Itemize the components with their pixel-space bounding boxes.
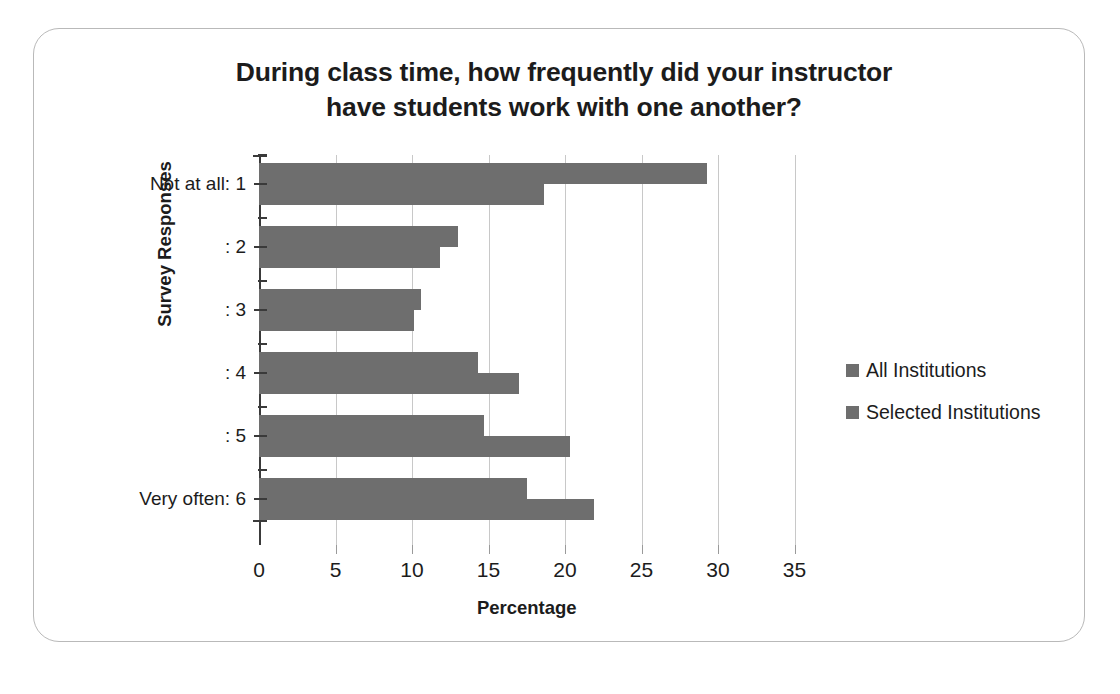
y-tick-label: : 3 <box>46 299 246 321</box>
bar-group: : 2 <box>259 226 795 268</box>
y-tick-mark <box>254 246 267 248</box>
y-tick-label: : 2 <box>46 236 246 258</box>
y-tick-mark-minor <box>258 343 267 345</box>
x-tick-label: 15 <box>477 558 500 582</box>
chart-title-line-2: have students work with one another? <box>144 90 984 125</box>
x-tick-mark <box>795 545 796 554</box>
x-tick-mark <box>489 545 490 554</box>
legend-item[interactable]: Selected Institutions <box>846 401 1041 424</box>
x-tick-mark <box>642 545 643 554</box>
x-tick-mark <box>565 545 566 554</box>
y-tick-label: : 4 <box>46 362 246 384</box>
chart-frame: During class time, how frequently did yo… <box>33 28 1085 642</box>
bar-all-institutions <box>259 163 707 184</box>
legend-swatch-icon <box>846 364 859 377</box>
x-tick-label: 25 <box>630 558 653 582</box>
legend-item[interactable]: All Institutions <box>846 359 1041 382</box>
x-tick-label: 35 <box>783 558 806 582</box>
chart-title: During class time, how frequently did yo… <box>144 55 984 125</box>
chart-legend: All InstitutionsSelected Institutions <box>846 359 1041 443</box>
bar-group: : 3 <box>259 289 795 331</box>
x-tick-label: 20 <box>553 558 576 582</box>
x-tick-label: 30 <box>706 558 729 582</box>
x-tick-label: 5 <box>330 558 342 582</box>
y-tick-mark-minor <box>258 217 267 219</box>
y-tick-mark <box>254 498 267 500</box>
y-tick-mark <box>254 372 267 374</box>
y-tick-label: Not at all: 1 <box>46 173 246 195</box>
bar-selected-institutions <box>259 436 570 457</box>
y-tick-mark <box>254 309 267 311</box>
y-tick-mark <box>254 435 267 437</box>
y-tick-label: : 5 <box>46 425 246 447</box>
bar-selected-institutions <box>259 373 519 394</box>
y-axis-cap <box>253 155 267 157</box>
x-tick-mark <box>718 545 719 554</box>
bar-group: Not at all: 1 <box>259 163 795 205</box>
x-tick-label: 10 <box>400 558 423 582</box>
bar-selected-institutions <box>259 310 414 331</box>
bar-group: Very often: 6 <box>259 478 795 520</box>
gridline <box>795 155 796 545</box>
legend-label: All Institutions <box>866 359 986 382</box>
bar-all-institutions <box>259 478 527 499</box>
y-tick-label: Very often: 6 <box>46 488 246 510</box>
x-tick-mark <box>412 545 413 554</box>
bar-selected-institutions <box>259 499 594 520</box>
y-tick-mark-minor <box>258 406 267 408</box>
x-tick-label: 0 <box>253 558 265 582</box>
bar-all-institutions <box>259 352 478 373</box>
x-axis-title: Percentage <box>259 597 795 619</box>
bar-selected-institutions <box>259 184 544 205</box>
y-tick-mark <box>254 183 267 185</box>
bar-all-institutions <box>259 226 458 247</box>
chart-title-line-1: During class time, how frequently did yo… <box>144 55 984 90</box>
bar-all-institutions <box>259 289 421 310</box>
y-tick-mark-minor <box>258 469 267 471</box>
bar-group: : 4 <box>259 352 795 394</box>
bar-group: : 5 <box>259 415 795 457</box>
bar-selected-institutions <box>259 247 440 268</box>
plot-area: Not at all: 1: 2: 3: 4: 5Very often: 6 0… <box>259 155 795 545</box>
legend-label: Selected Institutions <box>866 401 1041 424</box>
x-tick-mark <box>336 545 337 554</box>
y-axis-cap <box>253 520 267 522</box>
y-tick-mark-minor <box>258 280 267 282</box>
legend-swatch-icon <box>846 406 859 419</box>
bar-all-institutions <box>259 415 484 436</box>
